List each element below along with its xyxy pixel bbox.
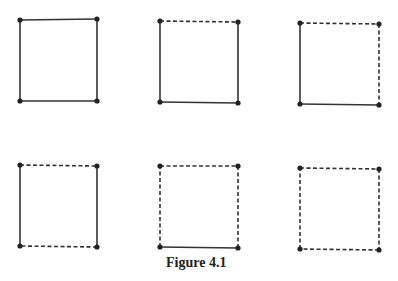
vertex-dot: [94, 98, 99, 103]
vertex-dot: [297, 101, 302, 106]
square-5: [157, 163, 240, 250]
vertex-dot: [157, 244, 162, 249]
vertex-dot: [157, 18, 162, 23]
vertex-dot: [376, 247, 381, 252]
vertex-dot: [297, 246, 302, 251]
edge-bottom-dashed: [300, 249, 379, 250]
vertex-dot: [235, 245, 240, 250]
square-6: [297, 165, 381, 252]
vertex-dot: [297, 20, 302, 25]
square-3: [297, 20, 381, 107]
edge-top-dashed: [160, 21, 238, 22]
edge-bottom-solid: [300, 104, 379, 105]
vertex-dot: [94, 163, 99, 168]
vertex-dot: [17, 243, 22, 248]
figure-caption: Figure 4.1: [166, 255, 226, 271]
edge-bottom-dashed: [20, 246, 97, 247]
vertex-dot: [376, 21, 381, 26]
figure-diagram: [0, 0, 398, 281]
edge-bottom-solid: [160, 102, 238, 103]
vertex-dot: [17, 98, 22, 103]
vertex-dot: [17, 162, 22, 167]
vertex-dot: [94, 16, 99, 21]
edge-top-solid: [20, 19, 97, 20]
edge-top-dashed: [20, 165, 97, 166]
vertex-dot: [235, 163, 240, 168]
square-4: [17, 162, 99, 249]
vertex-dot: [157, 163, 162, 168]
vertex-dot: [157, 99, 162, 104]
vertex-dot: [17, 17, 22, 22]
edge-top-dashed: [300, 23, 379, 24]
vertex-dot: [376, 166, 381, 171]
edge-bottom-solid: [160, 247, 238, 248]
square-1: [17, 16, 99, 103]
vertex-dot: [376, 102, 381, 107]
square-2: [157, 18, 240, 105]
edge-top-dashed: [300, 168, 379, 169]
vertex-dot: [235, 19, 240, 24]
vertex-dot: [235, 100, 240, 105]
vertex-dot: [297, 165, 302, 170]
vertex-dot: [94, 244, 99, 249]
